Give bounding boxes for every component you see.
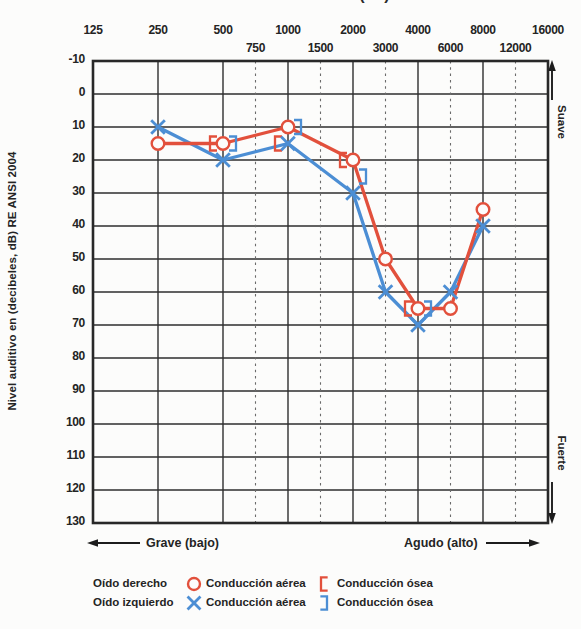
chart-canvas xyxy=(0,0,581,629)
y-tick-label: -10 xyxy=(51,53,85,67)
x-mid-tick-label: 3000 xyxy=(356,42,416,56)
y-tick-label: 70 xyxy=(51,317,85,331)
legend-right-air-label: Conducción aérea xyxy=(206,577,306,590)
x-tick-label: 500 xyxy=(193,24,253,38)
x-tick-label: 250 xyxy=(128,24,188,38)
y-tick-label: 120 xyxy=(51,482,85,496)
x-tick-label: 1000 xyxy=(258,24,318,38)
soft-label: Suave xyxy=(554,105,567,139)
x-mid-tick-label: 1500 xyxy=(291,42,351,56)
data-point-circle xyxy=(379,253,392,266)
data-point-circle xyxy=(347,154,360,167)
fuerte-arrow xyxy=(548,482,556,524)
data-point-circle xyxy=(282,121,295,134)
x-tick-label: 4000 xyxy=(388,24,448,38)
series-line-right-ear-air xyxy=(158,127,483,309)
agudo-arrow xyxy=(486,539,540,547)
y-tick-label: 30 xyxy=(51,185,85,199)
data-point-bracket-right xyxy=(320,596,327,609)
x-tick-label: 125 xyxy=(63,24,123,38)
data-point-circle xyxy=(152,137,165,150)
x-tick-label: 2000 xyxy=(323,24,383,38)
data-point-bracket-left xyxy=(275,137,282,151)
suave-arrow xyxy=(548,60,556,100)
x-mid-tick-label: 750 xyxy=(226,42,286,56)
y-tick-label: 60 xyxy=(51,284,85,298)
x-tick-label: 8000 xyxy=(453,24,513,38)
y-tick-label: 50 xyxy=(51,251,85,265)
data-point-circle xyxy=(477,203,490,216)
data-point-circle xyxy=(412,302,425,315)
data-point-circle xyxy=(217,137,230,150)
y-tick-label: 100 xyxy=(51,416,85,430)
legend-left-bone-label: Conducción ósea xyxy=(337,596,433,609)
y-tick-label: 40 xyxy=(51,218,85,232)
legend-right-ear-label: Oído derecho xyxy=(93,577,167,590)
legend-left-ear-label: Oído izquierdo xyxy=(93,596,174,609)
y-tick-label: 20 xyxy=(51,152,85,166)
x-mid-tick-label: 12000 xyxy=(486,42,546,56)
low-pitch-label: Grave (bajo) xyxy=(146,536,219,550)
y-tick-label: 80 xyxy=(51,350,85,364)
x-mid-tick-label: 6000 xyxy=(421,42,481,56)
y-tick-label: 0 xyxy=(51,86,85,100)
y-tick-label: 90 xyxy=(51,383,85,397)
data-point-circle xyxy=(444,302,457,315)
y-tick-label: 10 xyxy=(51,119,85,133)
x-tick-label: 16000 xyxy=(518,24,578,38)
y-axis-title: Nivel auditivo en (decibeles, dB) RE ANS… xyxy=(6,151,19,410)
y-tick-label: 130 xyxy=(51,515,85,529)
high-pitch-label: Agudo (alto) xyxy=(404,536,478,550)
y-tick-label: 110 xyxy=(51,449,85,463)
data-point-circle xyxy=(188,578,200,590)
legend-right-bone-label: Conducción ósea xyxy=(337,577,433,590)
grave-arrow xyxy=(87,539,140,547)
data-point-bracket-left xyxy=(321,577,328,590)
legend-left-air-label: Conducción aérea xyxy=(206,596,306,609)
loud-label: Fuerte xyxy=(554,435,567,470)
